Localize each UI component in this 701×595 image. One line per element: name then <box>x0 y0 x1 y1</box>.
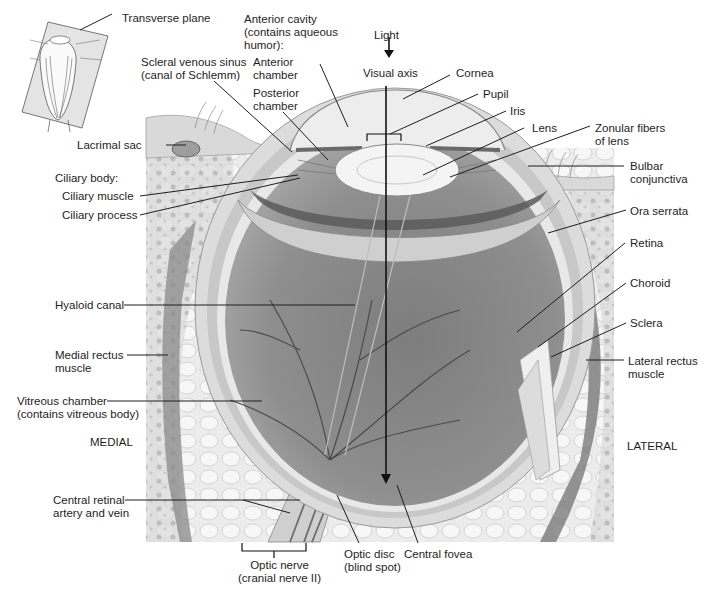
label-bulbar-conjunctiva: Bulbar conjunctiva <box>630 160 688 186</box>
label-iris: Iris <box>510 105 525 118</box>
label-pupil: Pupil <box>483 88 509 101</box>
label-medial: MEDIAL <box>90 436 133 449</box>
label-lateral-rectus: Lateral rectus muscle <box>628 355 698 381</box>
inset-transverse-plane <box>22 14 112 132</box>
label-lateral: LATERAL <box>627 440 677 453</box>
label-lacrimal-sac: Lacrimal sac <box>77 139 142 152</box>
label-posterior-chamber: Posterior chamber <box>253 87 299 113</box>
label-sclera: Sclera <box>630 317 663 330</box>
label-scleral-venous-sinus: Scleral venous sinus (canal of Schlemm) <box>141 56 246 82</box>
label-ciliary-process: Ciliary process <box>62 209 137 222</box>
label-cornea: Cornea <box>456 67 494 80</box>
label-vitreous-chamber: Vitreous chamber (contains vitreous body… <box>17 395 139 421</box>
label-central-fovea: Central fovea <box>404 548 472 561</box>
label-choroid: Choroid <box>630 277 670 290</box>
label-anterior-cavity: Anterior cavity (contains aqueous humor)… <box>244 13 338 52</box>
label-ciliary-muscle: Ciliary muscle <box>62 190 134 203</box>
label-central-retinal-artery-vein: Central retinal artery and vein <box>53 494 129 520</box>
label-retina: Retina <box>630 237 663 250</box>
label-anterior-chamber: Anterior chamber <box>253 56 298 82</box>
eyeball <box>195 88 595 528</box>
label-hyaloid-canal: Hyaloid canal <box>55 299 124 312</box>
label-zonular-fibers: Zonular fibers of lens <box>595 122 665 148</box>
label-optic-disc: Optic disc (blind spot) <box>344 548 401 574</box>
label-visual-axis: Visual axis <box>363 67 418 80</box>
label-transverse-plane: Transverse plane <box>122 12 210 25</box>
label-lens: Lens <box>532 122 557 135</box>
label-optic-nerve: Optic nerve (cranial nerve II) <box>238 559 321 585</box>
label-medial-rectus: Medial rectus muscle <box>55 349 123 375</box>
label-ora-serrata: Ora serrata <box>630 205 688 218</box>
label-light: Light <box>374 29 399 42</box>
label-ciliary-body: Ciliary body: <box>55 172 118 185</box>
